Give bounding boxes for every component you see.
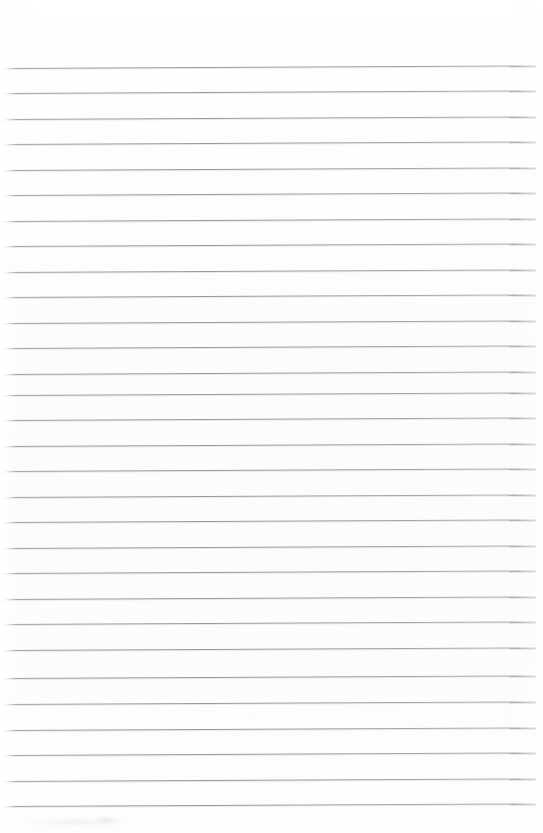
ruled-line <box>2 90 536 94</box>
ruled-line <box>2 494 536 498</box>
ruled-line <box>2 65 536 69</box>
ruled-line <box>2 192 536 196</box>
ruled-line <box>2 345 536 349</box>
ruled-line <box>2 294 536 298</box>
ruled-line <box>2 570 536 574</box>
ruled-line <box>2 269 536 273</box>
ruled-line <box>2 218 536 222</box>
ruled-line <box>2 675 536 679</box>
ruled-line <box>2 141 536 145</box>
ruled-line <box>2 443 536 447</box>
ruled-line <box>2 778 536 782</box>
ruled-line <box>2 727 536 731</box>
ruled-line <box>2 320 536 324</box>
ruled-line <box>2 468 536 472</box>
scanned-page <box>0 0 543 833</box>
ruled-line <box>2 545 536 549</box>
ruled-line <box>2 701 536 705</box>
ruled-line <box>2 752 536 756</box>
ruled-line <box>2 392 536 396</box>
ruled-line <box>2 519 536 523</box>
ruled-line <box>2 371 536 375</box>
ruled-lines-layer <box>0 0 543 833</box>
ruled-line <box>2 167 536 171</box>
ruled-line <box>2 596 536 600</box>
ruled-line <box>2 803 536 807</box>
ruled-line <box>2 243 536 247</box>
ruled-line <box>2 116 536 120</box>
ruled-line <box>2 647 536 651</box>
ruled-line <box>2 621 536 625</box>
ruled-line <box>2 417 536 421</box>
